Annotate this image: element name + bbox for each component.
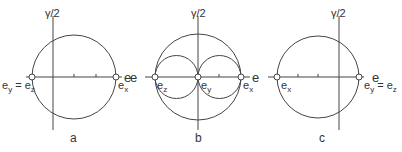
- axis-x-label: e: [252, 70, 259, 85]
- label-ez: ez: [157, 79, 167, 94]
- panel-b: γ/2 e e ez ey ex b: [130, 7, 259, 145]
- panel-label-c: c: [319, 131, 325, 145]
- panel-label-b: b: [195, 131, 202, 145]
- panel-c: γ/2 e ex ey = ez c: [268, 7, 397, 145]
- label-ex: ex: [281, 79, 291, 94]
- label-ey-ez: ey = ez: [364, 79, 397, 94]
- label-ey-ez: ey = ez: [2, 79, 35, 94]
- point-ex: [274, 74, 280, 80]
- point-ey-ez: [356, 74, 362, 80]
- panel-a: γ/2 e ey = ez ex a: [2, 7, 131, 145]
- label-ey: ey: [201, 79, 211, 94]
- panel-label-a: a: [70, 131, 77, 145]
- axis-y-label: γ/2: [191, 7, 206, 19]
- axis-y-label: γ/2: [331, 7, 346, 19]
- axis-x-label-left: e: [130, 70, 137, 85]
- axis-y-label: γ/2: [45, 7, 60, 19]
- mohr-circle-diagram: γ/2 e ey = ez ex a γ/2 e e ez ey ex b γ/…: [0, 0, 402, 152]
